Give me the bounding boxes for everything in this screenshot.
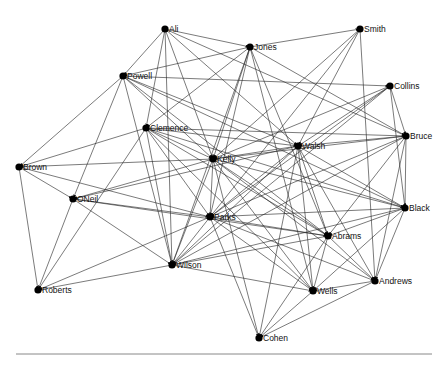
edge-abrams-wells	[313, 236, 328, 291]
node-label: Bruce	[410, 131, 432, 141]
edge-ali-wilson	[165, 29, 172, 265]
edge-kelly-wilson	[172, 159, 213, 265]
node-label: Black	[409, 203, 431, 213]
edge-collins-walsh	[298, 86, 390, 146]
edge-kelly-abrams	[213, 159, 328, 236]
node-dot-icon	[246, 43, 253, 50]
nodes-layer: AliJonesSmithPowellCollinsClemenceBruceW…	[15, 24, 432, 343]
edge-smith-walsh	[298, 29, 360, 146]
edge-smith-kelly	[213, 29, 360, 159]
node-label: Jones	[254, 42, 277, 52]
node-label: Powell	[127, 71, 152, 81]
edge-kelly-oneil	[73, 159, 213, 199]
edge-kelly-brown	[19, 159, 213, 167]
edge-brown-roberts	[19, 167, 38, 290]
node-dot-icon	[15, 163, 22, 170]
node-black[interactable]: Black	[401, 203, 430, 213]
node-dot-icon	[356, 25, 363, 32]
edge-black-andrews	[375, 208, 405, 281]
edges-layer	[19, 29, 406, 338]
edge-kelly-cohen	[213, 159, 259, 338]
node-oneil[interactable]: ONeil	[69, 194, 98, 204]
edge-parks-wilson	[172, 217, 210, 265]
node-label: Clemence	[150, 123, 189, 133]
edge-walsh-black	[298, 146, 405, 208]
node-dot-icon	[255, 334, 262, 341]
node-smith[interactable]: Smith	[356, 24, 386, 34]
node-wells[interactable]: Wells	[309, 286, 337, 296]
edge-bruce-black	[405, 136, 406, 208]
edge-oneil-roberts	[38, 199, 73, 290]
node-label: Brown	[23, 162, 47, 172]
node-clemence[interactable]: Clemence	[142, 123, 188, 133]
node-dot-icon	[294, 142, 301, 149]
edge-ali-powell	[123, 29, 165, 76]
edge-bruce-wilson	[172, 136, 406, 265]
node-label: Cohen	[263, 333, 288, 343]
node-cohen[interactable]: Cohen	[255, 333, 288, 343]
edge-jones-wells	[250, 47, 313, 291]
node-dot-icon	[206, 213, 213, 220]
network-graph: AliJonesSmithPowellCollinsClemenceBruceW…	[0, 0, 445, 366]
edge-abrams-andrews	[328, 236, 375, 281]
node-dot-icon	[34, 286, 41, 293]
edge-smith-andrews	[360, 29, 375, 281]
node-dot-icon	[168, 261, 175, 268]
node-powell[interactable]: Powell	[119, 71, 152, 81]
edge-kelly-parks	[210, 159, 213, 217]
edge-kelly-black	[213, 159, 405, 208]
edge-powell-collins	[123, 76, 390, 86]
node-label: Wells	[317, 286, 338, 296]
edge-parks-wells	[210, 217, 313, 291]
edge-powell-wilson	[123, 76, 172, 265]
edge-clemence-parks	[146, 128, 210, 217]
node-dot-icon	[386, 82, 393, 89]
edge-powell-brown	[19, 76, 123, 167]
node-dot-icon	[209, 155, 216, 162]
node-label: Abrams	[332, 231, 361, 241]
node-dot-icon	[324, 232, 331, 239]
node-label: Ali	[169, 24, 179, 34]
node-label: Smith	[364, 24, 386, 34]
edge-parks-cohen	[210, 217, 259, 338]
edge-brown-parks	[19, 167, 210, 217]
node-dot-icon	[142, 124, 149, 131]
node-bruce[interactable]: Bruce	[402, 131, 432, 141]
node-dot-icon	[69, 195, 76, 202]
node-abrams[interactable]: Abrams	[324, 231, 361, 241]
node-label: ONeil	[77, 194, 98, 204]
node-dot-icon	[161, 25, 168, 32]
edge-ali-kelly	[165, 29, 213, 159]
node-dot-icon	[371, 277, 378, 284]
node-label: Kelly	[217, 154, 236, 164]
node-dot-icon	[401, 204, 408, 211]
node-brown[interactable]: Brown	[15, 162, 47, 172]
node-dot-icon	[309, 287, 316, 294]
node-label: Parks	[214, 212, 236, 222]
edge-smith-parks	[210, 29, 360, 217]
edge-ali-bruce	[165, 29, 406, 136]
edge-clemence-black	[146, 128, 405, 208]
edge-powell-kelly	[123, 76, 213, 159]
node-dot-icon	[119, 72, 126, 79]
node-andrews[interactable]: Andrews	[371, 276, 412, 286]
node-dot-icon	[402, 132, 409, 139]
node-parks[interactable]: Parks	[206, 212, 235, 222]
node-ali[interactable]: Ali	[161, 24, 178, 34]
node-label: Walsh	[302, 141, 326, 151]
edge-walsh-oneil	[73, 146, 298, 199]
edge-clemence-wilson	[146, 128, 172, 265]
node-label: Andrews	[379, 276, 412, 286]
edge-walsh-andrews	[298, 146, 375, 281]
edge-kelly-andrews	[213, 159, 375, 281]
edge-oneil-abrams	[73, 199, 328, 236]
node-kelly[interactable]: Kelly	[209, 154, 236, 164]
node-label: Collins	[394, 81, 420, 91]
node-label: Roberts	[42, 285, 72, 295]
edge-jones-kelly	[213, 47, 250, 159]
node-label: Wilson	[176, 260, 202, 270]
edge-black-parks	[210, 208, 405, 217]
